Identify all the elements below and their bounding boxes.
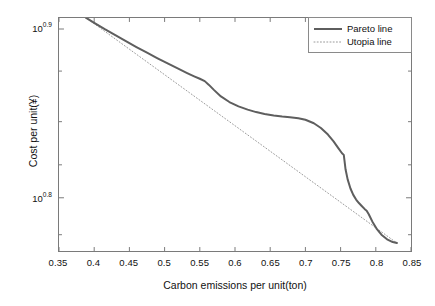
legend-item-pareto[interactable]: Pareto line [313, 22, 406, 35]
x-tick-label-5: 0.6 [228, 257, 242, 268]
y-axis-title: Cost per unit(¥) [27, 51, 39, 211]
x-tick-label-10: 0.85 [403, 257, 422, 268]
x-tick-label-1: 0.4 [87, 257, 101, 268]
chart-legend: Pareto line Utopia line [308, 17, 412, 53]
x-tick-label-4: 0.55 [190, 257, 209, 268]
legend-item-utopia[interactable]: Utopia line [313, 35, 406, 48]
chart-figure: 0.350.40.450.50.550.60.650.70.750.80.85 … [0, 0, 435, 306]
y-tick-exponent-1: 0.8 [43, 192, 52, 199]
y-tick-base-0: 10 [32, 23, 43, 34]
x-tick-label-7: 0.7 [299, 257, 313, 268]
x-axis-title: Carbon emissions per unit(ton) [58, 279, 412, 291]
x-tick-label-2: 0.45 [119, 257, 138, 268]
x-tick-label-0: 0.35 [49, 257, 68, 268]
x-tick-label-9: 0.8 [370, 257, 384, 268]
legend-label-pareto: Pareto line [347, 23, 392, 34]
y-tick-label-0: 100.9 [16, 23, 52, 34]
y-tick-exponent-0: 0.9 [43, 21, 52, 28]
utopia-line-swatch [313, 37, 343, 47]
x-tick-label-3: 0.5 [157, 257, 171, 268]
x-tick-label-6: 0.65 [261, 257, 280, 268]
x-tick-label-8: 0.75 [332, 257, 351, 268]
legend-label-utopia: Utopia line [347, 36, 392, 47]
pareto-line-swatch [313, 24, 343, 34]
